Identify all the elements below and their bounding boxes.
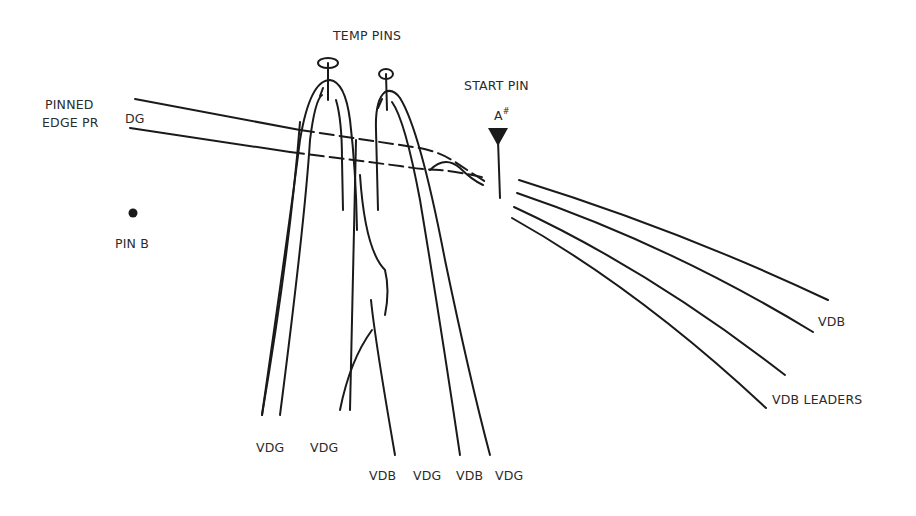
vdb-leaders-label: VDB LEADERS xyxy=(772,392,862,407)
temp-pin-2 xyxy=(376,69,490,455)
start-pin-label: START PIN xyxy=(464,78,529,93)
start-pin-sup: # xyxy=(503,107,510,116)
start-pin-id-label: A# xyxy=(494,104,510,123)
bottom-label-vdg-2: VDG xyxy=(310,440,338,455)
temp-pin-1 xyxy=(262,58,357,415)
pinned-edge-label-line2: EDGE PR xyxy=(42,115,99,130)
bottom-label-vdb-1: VDB xyxy=(369,468,396,483)
bottom-label-vdb-2: VDB xyxy=(456,468,483,483)
edge-color-label: DG xyxy=(125,111,145,126)
bottom-label-vdg-3: VDG xyxy=(413,468,441,483)
vdb-leaders xyxy=(512,180,828,408)
start-pin-id: A xyxy=(494,108,503,123)
bottom-label-vdg-1: VDG xyxy=(256,440,284,455)
pin-b-dot xyxy=(129,209,138,218)
weaving-diagram xyxy=(0,0,916,516)
bottom-label-vdg-4: VDG xyxy=(495,468,523,483)
pinned-edge-label-line1: PINNED xyxy=(45,97,94,112)
vdb-right-label: VDB xyxy=(818,314,845,329)
temp-pins-label: TEMP PINS xyxy=(333,28,401,43)
start-pin xyxy=(488,128,508,198)
pin-b-label: PIN B xyxy=(115,236,149,251)
